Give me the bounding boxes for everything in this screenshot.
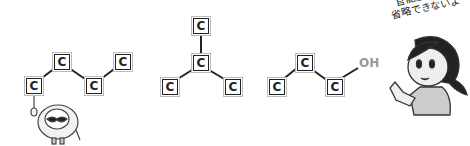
- diagram-canvas: C C C C C C C C C C C OH 官能基は 省略できないよ: [0, 0, 470, 146]
- hydroxyl-group-label: OH: [359, 56, 379, 70]
- carbon-atom: C: [54, 54, 70, 70]
- sheep-mascot-icon: [31, 96, 80, 144]
- carbon-atom: C: [26, 78, 42, 94]
- carbon-atom: C: [297, 55, 313, 71]
- carbon-atom: C: [162, 79, 178, 95]
- bonds-layer: [0, 0, 470, 146]
- girl-character-icon: [390, 37, 467, 115]
- carbon-atom: C: [86, 78, 102, 94]
- carbon-atom: C: [193, 55, 209, 71]
- carbon-atom: C: [327, 79, 343, 95]
- carbon-atom: C: [269, 79, 285, 95]
- carbon-atom: C: [193, 18, 209, 34]
- carbon-atom: C: [225, 79, 241, 95]
- carbon-atom: C: [115, 54, 131, 70]
